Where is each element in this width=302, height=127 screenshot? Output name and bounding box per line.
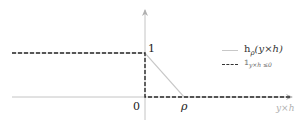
- solid-line-swatch-icon: [222, 50, 238, 51]
- x-tick-origin: 0: [133, 101, 140, 112]
- x-tick-rho: ρ: [181, 101, 187, 112]
- legend-label-hinge: hρ(y×h): [244, 43, 283, 57]
- legend-indicator-subscript: y×h ≤0: [249, 62, 272, 69]
- legend-item-indicator: 𝟙y×h ≤0: [222, 57, 283, 71]
- legend: hρ(y×h) 𝟙y×h ≤0: [222, 43, 283, 71]
- x-axis-label: y×h: [276, 104, 294, 113]
- legend-hinge-argument: (y×h): [255, 43, 283, 54]
- y-tick-one: 1: [148, 43, 155, 54]
- dashed-line-swatch-icon: [222, 64, 238, 65]
- legend-label-indicator: 𝟙y×h ≤0: [244, 59, 272, 68]
- legend-item-hinge: hρ(y×h): [222, 43, 283, 57]
